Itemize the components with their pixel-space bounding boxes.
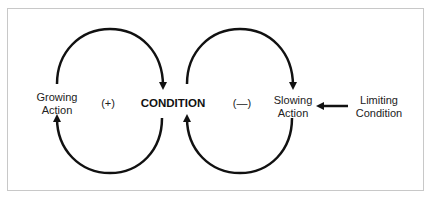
reinforcing-top-arrow (57, 29, 163, 86)
limiting-line2: Condition (348, 107, 410, 120)
condition-label: CONDITION (140, 97, 206, 110)
slowing-action-label: Slowing Action (270, 94, 316, 120)
slowing-line1: Slowing (270, 94, 316, 107)
reinforcing-polarity: (+) (94, 97, 122, 110)
balancing-polarity: (—) (228, 97, 256, 110)
limiting-condition-label: Limiting Condition (348, 94, 410, 120)
growing-line1: Growing (30, 91, 84, 104)
slowing-line2: Action (270, 107, 316, 120)
growing-action-label: Growing Action (30, 91, 84, 117)
growing-line2: Action (30, 104, 84, 117)
reinforcing-bottom-arrow (57, 118, 162, 173)
balancing-top-arrow (187, 29, 293, 86)
limiting-line1: Limiting (348, 94, 410, 107)
balancing-bottom-arrow (187, 118, 292, 173)
